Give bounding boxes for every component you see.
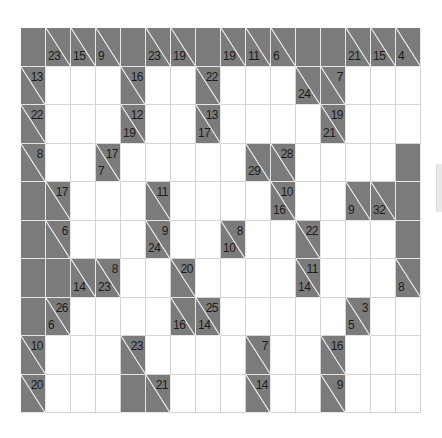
entry-cell[interactable]: [396, 375, 421, 414]
entry-cell[interactable]: [321, 298, 346, 337]
entry-cell[interactable]: [71, 221, 96, 260]
entry-cell[interactable]: [321, 182, 346, 221]
entry-cell[interactable]: [246, 298, 271, 337]
entry-cell[interactable]: [396, 67, 421, 106]
entry-cell[interactable]: [296, 144, 321, 183]
entry-cell[interactable]: [371, 298, 396, 337]
entry-cell[interactable]: [171, 336, 196, 375]
entry-cell[interactable]: [196, 259, 221, 298]
entry-cell[interactable]: [346, 259, 371, 298]
entry-cell[interactable]: [146, 67, 171, 106]
entry-cell[interactable]: [46, 67, 71, 106]
entry-cell[interactable]: [296, 375, 321, 414]
entry-cell[interactable]: [346, 105, 371, 144]
entry-cell[interactable]: [96, 221, 121, 260]
entry-cell[interactable]: [221, 144, 246, 183]
entry-cell[interactable]: [221, 182, 246, 221]
entry-cell[interactable]: [146, 144, 171, 183]
entry-cell[interactable]: [196, 182, 221, 221]
entry-cell[interactable]: [221, 67, 246, 106]
entry-cell[interactable]: [371, 259, 396, 298]
entry-cell[interactable]: [146, 105, 171, 144]
entry-cell[interactable]: [71, 375, 96, 414]
entry-cell[interactable]: [321, 144, 346, 183]
entry-cell[interactable]: [121, 182, 146, 221]
entry-cell[interactable]: [96, 375, 121, 414]
entry-cell[interactable]: [271, 67, 296, 106]
entry-cell[interactable]: [296, 298, 321, 337]
entry-cell[interactable]: [146, 298, 171, 337]
entry-cell[interactable]: [196, 375, 221, 414]
entry-cell[interactable]: [371, 336, 396, 375]
entry-cell[interactable]: [71, 298, 96, 337]
entry-cell[interactable]: [71, 336, 96, 375]
entry-cell[interactable]: [271, 375, 296, 414]
entry-cell[interactable]: [171, 221, 196, 260]
entry-cell[interactable]: [121, 259, 146, 298]
entry-cell[interactable]: [96, 105, 121, 144]
entry-cell[interactable]: [171, 105, 196, 144]
entry-cell[interactable]: [346, 221, 371, 260]
entry-cell[interactable]: [46, 336, 71, 375]
entry-cell[interactable]: [46, 375, 71, 414]
across-clue: 13: [206, 109, 218, 121]
entry-cell[interactable]: [296, 182, 321, 221]
entry-cell[interactable]: [96, 182, 121, 221]
entry-cell[interactable]: [146, 336, 171, 375]
entry-cell[interactable]: [46, 105, 71, 144]
entry-cell[interactable]: [346, 144, 371, 183]
entry-cell[interactable]: [271, 298, 296, 337]
entry-cell[interactable]: [246, 221, 271, 260]
entry-cell[interactable]: [221, 259, 246, 298]
entry-cell[interactable]: [246, 67, 271, 106]
entry-cell[interactable]: [246, 105, 271, 144]
entry-cell[interactable]: [371, 221, 396, 260]
entry-cell[interactable]: [146, 259, 171, 298]
entry-cell[interactable]: [71, 144, 96, 183]
entry-cell[interactable]: [271, 221, 296, 260]
entry-cell[interactable]: [71, 182, 96, 221]
entry-cell[interactable]: [96, 67, 121, 106]
entry-cell[interactable]: [171, 67, 196, 106]
entry-cell[interactable]: [71, 67, 96, 106]
entry-cell[interactable]: [371, 144, 396, 183]
entry-cell[interactable]: [196, 336, 221, 375]
entry-cell[interactable]: [371, 375, 396, 414]
entry-cell[interactable]: [246, 182, 271, 221]
entry-cell[interactable]: [396, 298, 421, 337]
entry-cell[interactable]: [321, 221, 346, 260]
entry-cell[interactable]: [321, 259, 346, 298]
entry-cell[interactable]: [371, 67, 396, 106]
entry-cell[interactable]: [346, 336, 371, 375]
block-cell: [46, 259, 71, 298]
entry-cell[interactable]: [121, 298, 146, 337]
entry-cell[interactable]: [221, 298, 246, 337]
entry-cell[interactable]: [196, 221, 221, 260]
entry-cell[interactable]: [121, 221, 146, 260]
entry-cell[interactable]: [246, 259, 271, 298]
entry-cell[interactable]: [271, 336, 296, 375]
entry-cell[interactable]: [171, 182, 196, 221]
entry-cell[interactable]: [171, 375, 196, 414]
entry-cell[interactable]: [196, 144, 221, 183]
entry-cell[interactable]: [221, 105, 246, 144]
entry-cell[interactable]: [96, 298, 121, 337]
entry-cell[interactable]: [271, 105, 296, 144]
entry-cell[interactable]: [96, 336, 121, 375]
entry-cell[interactable]: [346, 375, 371, 414]
entry-cell[interactable]: [396, 336, 421, 375]
entry-cell[interactable]: [346, 67, 371, 106]
entry-cell[interactable]: [296, 105, 321, 144]
side-scrollbar[interactable]: [436, 164, 442, 212]
entry-cell[interactable]: [396, 105, 421, 144]
entry-cell[interactable]: [221, 336, 246, 375]
entry-cell[interactable]: [271, 259, 296, 298]
entry-cell[interactable]: [171, 144, 196, 183]
entry-cell[interactable]: [71, 105, 96, 144]
entry-cell[interactable]: [296, 336, 321, 375]
entry-cell[interactable]: [221, 375, 246, 414]
entry-cell[interactable]: [371, 105, 396, 144]
entry-cell[interactable]: [46, 144, 71, 183]
across-clue: 16: [131, 71, 143, 83]
entry-cell[interactable]: [121, 144, 146, 183]
